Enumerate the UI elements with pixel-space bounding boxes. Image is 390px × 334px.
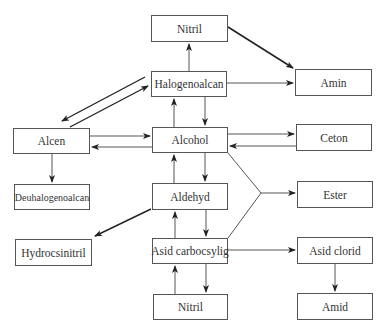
- node-nitril-bottom: Nitril: [153, 294, 228, 320]
- node-halogenoalcan: Halogenoalcan: [151, 71, 227, 97]
- node-asid-carbocsylig: Asid carbocsylig: [152, 238, 228, 264]
- node-aldehyd: Aldehyd: [152, 183, 228, 210]
- node-alcohol: Alcohol: [152, 127, 228, 153]
- arrow-aldehyd-hydrocsinitril: [95, 209, 151, 236]
- node-alcen: Alcen: [13, 128, 90, 154]
- ester-junction: [228, 153, 261, 238]
- arrow-nitril-amin: [228, 27, 293, 68]
- node-amid: Amid: [297, 293, 373, 320]
- arrow-alcen-halogenoalcan: [70, 86, 148, 127]
- node-amin: Amin: [295, 69, 372, 96]
- node-asid-clorid: Asid clorid: [297, 237, 373, 264]
- node-deuhalogenoalcan: Deuhalogenoalcan: [14, 184, 90, 210]
- node-ceton: Ceton: [296, 124, 372, 151]
- node-nitril-top: Nitril: [151, 15, 228, 42]
- reaction-arrows: [0, 0, 390, 334]
- node-hydrocsinitril: Hydrocsinitril: [15, 239, 92, 266]
- node-ester: Ester: [297, 181, 373, 208]
- arrow-halogenoalcan-alcen: [62, 77, 145, 121]
